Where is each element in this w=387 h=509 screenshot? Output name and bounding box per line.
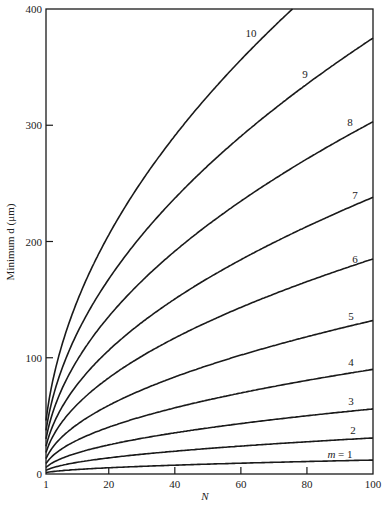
curve-m-3: [46, 409, 373, 468]
y-tick-label: 0: [37, 468, 43, 480]
curve-label-m-1: m = 1: [327, 448, 352, 460]
y-axis: 0100200300400: [26, 3, 54, 480]
curve-label-m-7: 7: [352, 189, 358, 201]
y-tick-label: 400: [26, 3, 43, 15]
curve-m-6: [46, 259, 373, 453]
curve-label-m-8: 8: [347, 116, 353, 128]
curves: [46, 9, 373, 473]
curve-m-2: [46, 438, 373, 470]
y-axis-title: Minimum d (μm): [4, 203, 17, 280]
chart-figure: m = 12345678910 120406080100 01002003004…: [0, 0, 387, 509]
curve-label-m-6: 6: [352, 253, 358, 265]
curve-label-m-5: 5: [348, 310, 354, 322]
y-tick-label: 300: [26, 119, 43, 131]
x-tick-label: 20: [103, 478, 115, 490]
curve-label-m-4: 4: [348, 356, 354, 368]
x-tick-label: 40: [169, 478, 181, 490]
curve-m-9: [46, 38, 373, 430]
curve-label-m-9: 9: [302, 68, 308, 80]
curve-m-1: [46, 460, 373, 473]
curve-label-m-3: 3: [348, 395, 354, 407]
plot-area: [46, 9, 373, 474]
curve-m-4: [46, 369, 373, 463]
curve-m-10: [46, 9, 293, 421]
curve-label-m-10: 10: [246, 27, 258, 39]
y-tick-label: 100: [26, 352, 43, 364]
x-tick-label: 100: [365, 478, 382, 490]
curve-m-5: [46, 321, 373, 459]
x-tick-label: 80: [301, 478, 313, 490]
plot-frame: [46, 9, 373, 474]
x-tick-label: 1: [43, 478, 49, 490]
x-axis-title: N: [200, 490, 209, 502]
x-axis: 120406080100: [43, 467, 382, 490]
y-tick-label: 200: [26, 236, 43, 248]
curve-label-m-2: 2: [350, 424, 356, 436]
curve-m-8: [46, 122, 373, 439]
x-tick-label: 60: [235, 478, 247, 490]
curve-labels: m = 12345678910: [246, 27, 359, 460]
